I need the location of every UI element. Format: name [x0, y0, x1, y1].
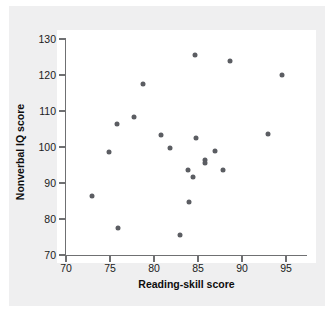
data-point [89, 193, 94, 198]
data-point [115, 121, 120, 126]
y-tick-mark [59, 110, 65, 111]
y-tick-mark [59, 74, 65, 75]
data-point [115, 226, 120, 231]
x-tick-label: 85 [192, 262, 204, 274]
data-point [193, 52, 198, 57]
data-point [280, 73, 285, 78]
y-tick-mark [59, 146, 65, 147]
x-axis-title: Reading-skill score [0, 278, 333, 290]
data-point [140, 82, 145, 87]
data-point [187, 200, 192, 205]
data-point [212, 148, 217, 153]
y-tick-label: 130 [30, 33, 56, 45]
y-axis-line [65, 38, 66, 256]
data-point [190, 174, 195, 179]
y-tick-mark [59, 254, 65, 255]
data-point [131, 114, 136, 119]
data-point [167, 145, 172, 150]
y-tick-mark [59, 218, 65, 219]
x-axis-line [65, 255, 307, 256]
data-point [178, 232, 183, 237]
y-tick-label: 100 [30, 141, 56, 153]
data-point [227, 59, 232, 64]
x-tick-label: 90 [236, 262, 248, 274]
scatter-plot-figure: 708090100110120130 707580859095 Reading-… [0, 0, 333, 315]
x-tick-label: 80 [148, 262, 160, 274]
x-tick-label: 70 [60, 262, 72, 274]
y-tick-mark [59, 182, 65, 183]
data-point [159, 133, 164, 138]
data-point [220, 168, 225, 173]
x-tick-label: 75 [104, 262, 116, 274]
y-axis-title: Nonverbal IQ score [14, 92, 26, 212]
y-tick-mark [59, 38, 65, 39]
data-point [186, 168, 191, 173]
data-point [265, 131, 270, 136]
x-tick-label: 95 [280, 262, 292, 274]
data-point [203, 161, 208, 166]
y-tick-label: 120 [30, 69, 56, 81]
data-point [194, 135, 199, 140]
plot-panel [66, 36, 307, 255]
y-tick-label: 110 [30, 105, 56, 117]
y-tick-label: 80 [30, 213, 56, 225]
y-tick-label: 70 [30, 249, 56, 261]
data-point [107, 150, 112, 155]
y-tick-label: 90 [30, 177, 56, 189]
